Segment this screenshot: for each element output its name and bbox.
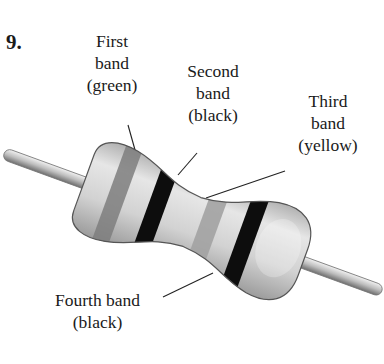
leader-third: [206, 171, 285, 198]
right-lead: [293, 254, 384, 297]
left-lead: [2, 148, 95, 192]
leader-second: [178, 153, 197, 175]
resistor-illustration: [0, 0, 384, 364]
leader-fourth: [163, 273, 213, 297]
